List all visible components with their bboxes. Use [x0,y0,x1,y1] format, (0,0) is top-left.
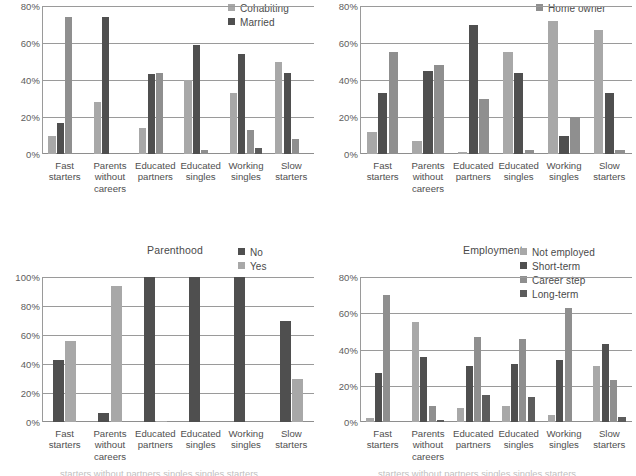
plot-area-parenthood [42,277,314,422]
bar [437,420,444,422]
gridline [42,117,314,118]
chart-panel-employment: Employment Not employed Short-term Caree… [318,240,636,476]
bar [234,277,245,422]
cropped-caption-text: starters without partners singles single… [378,468,576,476]
gridline [42,364,314,365]
bar [503,52,513,154]
gridline [42,306,314,307]
y-axis-line [42,6,43,154]
bar [111,286,122,422]
x-axis-label-line: Slow [583,428,636,439]
bar [482,395,489,422]
bar [247,130,254,154]
x-axis-label-line: Slow [583,160,636,171]
x-axis-category-label: Slowstarters [265,428,318,451]
legend-parenthood: No Yes [238,243,308,273]
bar [618,417,625,422]
gridline [360,117,632,118]
y-axis-line [42,277,43,422]
bar [594,30,604,154]
x-axis-baseline [360,153,632,154]
y-axis-tick-mark [35,154,39,155]
x-axis-label-line: starters [265,171,318,182]
bar [528,397,535,422]
bar [610,380,617,422]
bar [255,148,262,154]
bar [593,366,600,422]
bar [434,65,444,154]
gridline [42,43,314,44]
bar [429,406,436,422]
y-axis-tick-mark [35,277,39,278]
y-axis-tick-mark [353,80,357,81]
bar [469,25,479,155]
legend-label-yes: Yes [250,261,267,272]
x-axis-labels-partnership: FaststartersParentswithoutcareersEducate… [42,160,314,196]
y-axis-tick-mark [35,364,39,365]
gridline [360,6,632,7]
bar [412,322,419,422]
legend-item-short-term[interactable]: Short-term [520,257,580,269]
bar [284,73,291,154]
x-axis-labels-parenthood: FaststartersParentswithoutcareersEducate… [42,428,314,464]
x-axis-category-label: Slowstarters [265,160,318,183]
x-axis-label-line: Slow [265,160,318,171]
bar [57,123,64,154]
x-axis-category-label: Slowstarters [583,160,636,183]
y-axis-housing: 0%20%40%60%80% [320,6,358,154]
bar [201,150,208,154]
bar [280,321,291,423]
bar [144,277,155,422]
gridline [360,277,632,278]
bar [605,93,615,154]
bar [389,52,399,154]
bar [457,408,464,423]
x-axis-labels-employment: FaststartersParentswithoutcareersEducate… [360,428,632,464]
bar [548,21,558,154]
bar [375,373,382,422]
bar [423,71,433,154]
y-axis-tick-mark [35,335,39,336]
bar [525,150,535,154]
legend-swatch-yes [238,262,245,269]
bar [156,73,163,154]
chart-panel-parenthood: Parenthood No Yes 0%20%40%60%80%100% Fas… [0,240,318,476]
y-axis-tick-mark [353,386,357,387]
x-axis-label-line: careers [83,451,136,462]
x-axis-baseline [42,421,314,422]
legend-item-no[interactable]: No [238,243,263,255]
y-axis-tick-mark [35,393,39,394]
bar [102,17,109,154]
y-axis-parenthood: 0%20%40%60%80%100% [0,277,40,422]
gridline [42,277,314,278]
x-axis-category-label: Slowstarters [583,428,636,451]
bar [156,421,167,422]
y-axis-tick-mark [35,306,39,307]
x-axis-label-line: Slow [265,428,318,439]
gridline [360,43,632,44]
bar [98,413,109,422]
bar [570,117,580,154]
bar [420,357,427,422]
x-axis-baseline [360,421,632,422]
y-axis-tick-mark [35,117,39,118]
bar [565,308,572,422]
gridline [360,80,632,81]
bar [65,341,76,422]
bar [53,360,64,422]
x-axis-labels-housing: FaststartersParentswithoutcareersEducate… [360,160,632,196]
bar [193,45,200,154]
bar [519,339,526,422]
x-axis-label-line: starters [583,439,636,450]
bar [184,80,191,154]
bar [548,415,555,422]
y-axis-employment: 0%20%40%60%80% [320,277,358,422]
bar [479,99,489,155]
bar [292,379,303,423]
bar [367,132,377,154]
legend-item-yes[interactable]: Yes [238,257,267,269]
bar [139,128,146,154]
legend-item-not-employed[interactable]: Not employed [520,243,595,255]
x-axis-baseline [42,153,314,154]
bar [275,62,282,155]
